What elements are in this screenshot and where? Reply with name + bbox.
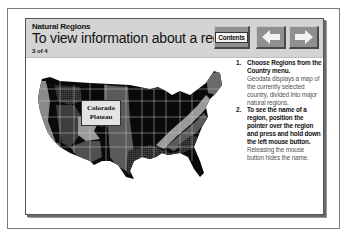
- left-arrow-icon: [261, 29, 281, 45]
- page-counter: 3 of 4: [32, 48, 48, 54]
- map-graphic[interactable]: [30, 61, 235, 191]
- region-name-callout: Colorado Plateau: [81, 100, 121, 126]
- contents-button[interactable]: Contents: [214, 26, 250, 49]
- step-number: 1.: [236, 59, 241, 67]
- callout-line-1: Colorado: [82, 104, 120, 113]
- us-regions-map[interactable]: Colorado Plateau: [30, 61, 235, 191]
- page-title: To view information about a region: [32, 30, 238, 46]
- right-arrow-icon: [294, 29, 314, 45]
- contents-button-label: Contents: [215, 32, 248, 43]
- step-2: 2. To see the name of a region, position…: [236, 106, 322, 161]
- instruction-steps: 1. Choose Regions from the Country menu.…: [236, 59, 322, 162]
- step-instruction: Choose Regions from the Country menu.: [247, 59, 322, 75]
- step-detail: Geodata displays a map of the currently …: [247, 75, 322, 107]
- step-instruction: To see the name of a region, position th…: [247, 106, 322, 146]
- callout-line-2: Plateau: [82, 113, 120, 122]
- step-1: 1. Choose Regions from the Country menu.…: [236, 59, 322, 106]
- forward-button[interactable]: [289, 26, 319, 49]
- step-number: 2.: [236, 106, 241, 114]
- header-band: Natural Regions To view information abou…: [26, 19, 323, 58]
- back-button[interactable]: [256, 26, 286, 49]
- step-detail: Releasing the mouse button hides the nam…: [247, 146, 322, 162]
- help-panel: Natural Regions To view information abou…: [25, 18, 324, 215]
